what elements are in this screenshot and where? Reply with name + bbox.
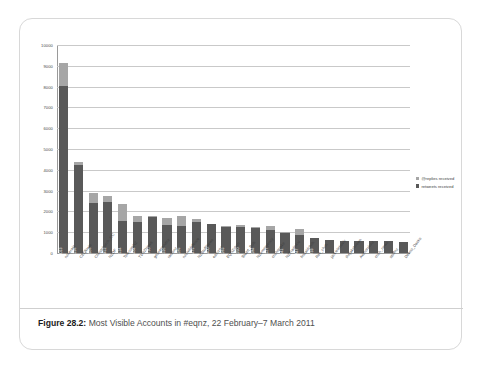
x-axis-label-slot: EQNZchch <box>221 255 230 305</box>
bar-column[interactable]: 1127 <box>266 45 275 253</box>
figure-caption-text: Most Visible Accounts in #eqnz, 22 Febru… <box>86 318 315 328</box>
legend-label: retweets received <box>421 184 453 189</box>
bar-segment-replies <box>177 216 186 226</box>
chart-legend: @replies receivedretweets received <box>416 176 474 191</box>
bar-segment-retweets: 8013 <box>59 86 68 253</box>
caption-divider <box>20 308 463 309</box>
x-axis-label-slot: chchquake <box>266 255 275 305</box>
y-axis-tick-label: 5000 <box>43 147 53 152</box>
bar-column[interactable]: 1250 <box>236 45 245 253</box>
bar-column[interactable]: 2452 <box>103 45 112 253</box>
y-axis-tick-label: 0 <box>51 251 53 256</box>
x-axis-label-slot: nzherald <box>59 255 68 305</box>
x-axis-label-slot: thejakebrown <box>340 255 349 305</box>
bar-column[interactable]: 1184 <box>251 45 260 253</box>
y-axis-tick-label: 10000 <box>41 43 53 48</box>
figure-caption: Figure 28.2: Most Visible Accounts in #e… <box>38 318 448 330</box>
bar-segment-retweets: 1524 <box>118 221 127 253</box>
legend-label: @replies received <box>421 176 454 181</box>
chart-region: 1000090008000700060005000400030002000100… <box>20 19 463 307</box>
x-axis-label-slot: TVNZNews <box>133 255 142 305</box>
bar-column[interactable]: 1263 <box>221 45 230 253</box>
x-axis-label-slot: Christchurch_CC <box>89 255 98 305</box>
legend-swatch-icon <box>416 184 419 187</box>
x-axis-label-slot: jackielebovic <box>325 255 334 305</box>
x-axis-label-slot: Deano_Dacko <box>399 255 408 305</box>
x-axis-label-slot: chch_news <box>369 255 378 305</box>
x-axis-label-slot: Rec_chch <box>310 255 319 305</box>
bar-segment-replies <box>162 218 171 226</box>
bar-column[interactable] <box>340 45 349 253</box>
x-axis-label-slot: nzcivildefence <box>177 255 186 305</box>
plot-area: 1000090008000700060005000400030002000100… <box>57 45 410 253</box>
bar-column[interactable] <box>354 45 363 253</box>
bar-segment-replies <box>59 63 68 86</box>
bar-segment-retweets: 4236 <box>74 165 83 253</box>
bar-column[interactable]: 4236 <box>74 45 83 253</box>
bar-segment-replies <box>89 193 98 203</box>
y-axis-tick-label: 6000 <box>43 126 53 131</box>
x-axis-label-slot: NZemergency <box>251 255 260 305</box>
x-axis-label-slot: geonetgovtnz <box>148 255 157 305</box>
bar-column[interactable]: 2386 <box>89 45 98 253</box>
bar-column[interactable]: 941 <box>280 45 289 253</box>
x-axis-label-slot: NZStuffNews <box>192 255 201 305</box>
bars-layer: 8013423623862452152414841730132612851475… <box>57 45 410 253</box>
x-axis-label-slot: stuffnz <box>384 255 393 305</box>
bar-column[interactable] <box>384 45 393 253</box>
x-axis-label-slot: earnznz <box>207 255 216 305</box>
bar-column[interactable]: 1285 <box>177 45 186 253</box>
bar-column[interactable] <box>399 45 408 253</box>
y-axis-tick-label: 4000 <box>43 167 53 172</box>
bar-column[interactable]: 1730 <box>148 45 157 253</box>
x-axis-label-slot: firstaidchch <box>295 255 304 305</box>
figure-caption-label: Figure 28.2: <box>38 318 86 328</box>
x-axis-label-slot: CEQkiwis <box>74 255 83 305</box>
x-axis-label-slot: NZDF <box>103 255 112 305</box>
bar-column[interactable] <box>325 45 334 253</box>
bar-column[interactable]: 847 <box>295 45 304 253</box>
legend-swatch-icon <box>416 177 419 180</box>
legend-item[interactable]: @replies received <box>416 176 474 181</box>
legend-item[interactable]: retweets received <box>416 184 474 189</box>
bar-segment-replies <box>118 204 127 221</box>
bar-column[interactable] <box>369 45 378 253</box>
bar-column[interactable]: 1524 <box>118 45 127 253</box>
bar-column[interactable]: 1400 <box>207 45 216 253</box>
bar-column[interactable]: 1326 <box>162 45 171 253</box>
x-axis-label-slot: Authorsinnz <box>354 255 363 305</box>
y-axis-tick-label: 2000 <box>43 209 53 214</box>
x-axis-label-slot: Stuart_Rob <box>236 255 245 305</box>
bar-column[interactable]: 1484 <box>133 45 142 253</box>
bar-segment-replies <box>133 216 142 223</box>
y-axis-tick-label: 3000 <box>43 188 53 193</box>
y-axis-tick-label: 8000 <box>43 84 53 89</box>
x-axis-label-slot: radionz <box>162 255 171 305</box>
x-axis-label-slot: NZTradeAid <box>280 255 289 305</box>
bar-column[interactable]: 733 <box>310 45 319 253</box>
figure-card: 1000090008000700060005000400030002000100… <box>19 18 462 350</box>
y-axis-tick-label: 9000 <box>43 63 53 68</box>
x-axis-labels: nzheraldCEQkiwisChristchurch_CCNZDFTelec… <box>57 255 410 305</box>
y-axis-tick-label: 7000 <box>43 105 53 110</box>
x-axis-label-slot: TelecomNZ <box>118 255 127 305</box>
bar-column[interactable]: 8013 <box>59 45 68 253</box>
y-axis-tick-label: 1000 <box>43 230 53 235</box>
bar-column[interactable]: 1475 <box>192 45 201 253</box>
